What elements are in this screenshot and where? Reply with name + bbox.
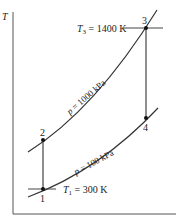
point-label-4: 4 — [143, 122, 148, 133]
point-label-2: 2 — [40, 127, 45, 138]
t3-label: T3 = 1400 K — [77, 23, 127, 36]
isobar-high-label: p = 1000 kPa — [64, 78, 107, 118]
t1-label: T1 = 300 K — [63, 184, 108, 197]
point-2 — [41, 138, 45, 142]
point-label-3: 3 — [142, 15, 147, 26]
ts-diagram: T 1 2 3 4 T3 = 1400 K T1 = 300 K p = 100… — [0, 0, 176, 223]
point-1 — [41, 187, 45, 191]
y-axis-label: T — [2, 11, 9, 22]
point-label-1: 1 — [40, 193, 45, 204]
point-3 — [144, 26, 148, 30]
point-4 — [144, 116, 148, 120]
isobar-low-label: p = 100 kPa — [71, 148, 115, 178]
